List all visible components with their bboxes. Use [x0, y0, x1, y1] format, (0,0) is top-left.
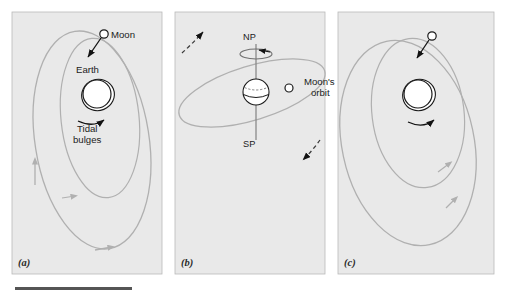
moons-orbit-label-line2: orbit	[311, 87, 330, 98]
earth-label: Earth	[76, 64, 99, 75]
tidal-bulges-label-line2: bulges	[73, 134, 101, 145]
panel-a-moon-body	[100, 30, 108, 38]
panel-a-label: (a)	[18, 257, 30, 269]
panel-b-earth-body	[243, 79, 269, 105]
panel-c-moon-body	[428, 32, 436, 40]
tidal-bulges-figure: Moon Earth Tidal bulges (a)	[0, 0, 506, 295]
panel-c: (c)	[322, 12, 494, 274]
moons-orbit-label-line1: Moon's	[304, 76, 335, 87]
panel-c-label: (c)	[344, 257, 356, 269]
panel-c-earth-body	[404, 80, 432, 108]
panel-b-moon-body	[285, 84, 293, 92]
panel-a: Moon Earth Tidal bulges (a)	[12, 12, 166, 274]
panel-c-background	[338, 12, 494, 274]
tidal-bulges-label-line1: Tidal	[77, 123, 97, 134]
panel-a-earth-body	[83, 80, 111, 108]
moon-label: Moon	[111, 29, 135, 40]
panel-b-label: (b)	[181, 257, 193, 269]
figure-canvas: Moon Earth Tidal bulges (a)	[0, 0, 506, 295]
north-pole-label: NP	[243, 32, 256, 42]
caption-rule	[15, 287, 132, 290]
south-pole-label: SP	[243, 139, 255, 149]
panel-b: NP SP Moon's orbit (b)	[171, 12, 334, 274]
